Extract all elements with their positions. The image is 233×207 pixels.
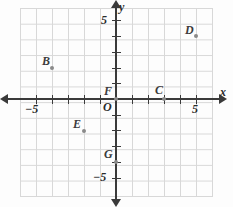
- y-axis-label-minus5: −5: [93, 170, 106, 185]
- x-axis-name: x: [220, 85, 226, 100]
- point-b-dot[interactable]: [50, 66, 54, 70]
- coordinate-plane-figure: −5 5 5 −5 O x y B C D E F G: [0, 0, 233, 207]
- x-tick-minus4: [52, 95, 53, 104]
- x-axis-label-plus5: 5: [192, 102, 198, 117]
- y-axis-name: y: [119, 0, 124, 15]
- x-tick-plus1: [132, 95, 133, 104]
- point-c-label: C: [155, 83, 163, 98]
- y-tick-minus2: [112, 130, 121, 131]
- x-tick-minus2: [84, 95, 85, 104]
- y-axis-label-plus5: 5: [101, 13, 107, 28]
- point-g-label: G: [104, 147, 113, 162]
- x-tick-plus2: [148, 95, 149, 104]
- y-tick-plus4: [112, 36, 121, 37]
- y-tick-plus5: [112, 20, 121, 21]
- y-tick-minus1: [112, 115, 121, 116]
- point-f-label: F: [104, 84, 112, 99]
- y-axis-arrow-down-icon: [111, 199, 121, 207]
- x-tick-minus1: [100, 95, 101, 104]
- point-d-label: D: [185, 23, 194, 38]
- y-tick-minus5: [112, 178, 121, 179]
- y-tick-minus3: [112, 146, 121, 147]
- point-f-dot[interactable]: [114, 97, 118, 101]
- point-b-label: B: [42, 54, 50, 69]
- y-tick-plus3: [112, 52, 121, 53]
- point-g-dot[interactable]: [114, 160, 118, 164]
- x-axis-arrow-left-icon: [0, 94, 8, 104]
- point-e-dot[interactable]: [82, 129, 86, 133]
- x-axis-label-minus5: −5: [25, 102, 38, 117]
- x-tick-minus3: [68, 95, 69, 104]
- point-e-label: E: [73, 117, 81, 132]
- origin-label: O: [103, 100, 112, 115]
- point-d-dot[interactable]: [194, 34, 198, 38]
- y-tick-plus2: [112, 68, 121, 69]
- y-tick-plus1: [112, 83, 121, 84]
- y-axis-line: [115, 3, 117, 201]
- x-tick-plus4: [180, 95, 181, 104]
